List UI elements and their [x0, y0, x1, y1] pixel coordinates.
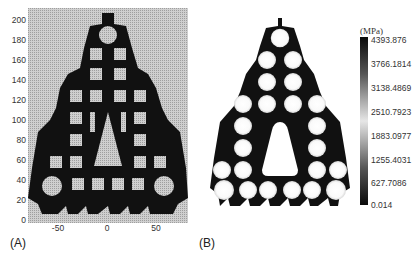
x-tick: 50: [141, 224, 171, 233]
colorbar-label: 1883.0977: [371, 132, 411, 141]
colorbar-label: 3138.4869: [371, 84, 411, 93]
panel-a-plot: [28, 8, 188, 223]
colorbar-label: 3766.1814: [371, 60, 411, 69]
colorbar: [360, 37, 368, 205]
colorbar-label: 4393.876: [371, 36, 406, 45]
panel-b-stress-map: [210, 18, 350, 218]
colorbar-label: 1255.4031: [371, 156, 411, 165]
y-tick: 20: [2, 196, 26, 205]
y-tick: 0: [2, 216, 26, 225]
y-tick: 200: [2, 16, 26, 25]
x-tick: 0: [92, 224, 122, 233]
x-tick: -50: [43, 224, 73, 233]
y-tick: 140: [2, 76, 26, 85]
panel-b-label: (B): [199, 236, 215, 250]
y-tick: 40: [2, 176, 26, 185]
y-tick: 120: [2, 96, 26, 105]
y-tick: 160: [2, 56, 26, 65]
colorbar-label: 0.014: [371, 201, 392, 210]
y-tick: 100: [2, 116, 26, 125]
y-tick: 60: [2, 156, 26, 165]
colorbar-label: 2510.7923: [371, 108, 411, 117]
colorbar-label: 627.7086: [371, 179, 406, 188]
panel-a-label: (A): [10, 236, 26, 250]
y-tick: 80: [2, 136, 26, 145]
y-tick: 180: [2, 36, 26, 45]
